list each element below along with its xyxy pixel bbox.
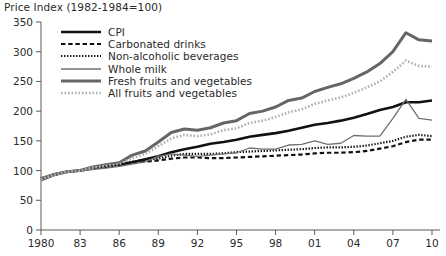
x-tick-label: 1980 bbox=[28, 237, 55, 249]
legend-line-swatch bbox=[61, 75, 101, 87]
legend-label: CPI bbox=[108, 26, 125, 38]
chart-legend: CPICarbonated drinksNon-alcoholic bevera… bbox=[61, 26, 252, 99]
y-tick-label: 50 bbox=[20, 194, 33, 206]
legend-line-swatch bbox=[61, 63, 101, 75]
x-tick-label: 01 bbox=[308, 237, 321, 249]
x-tick-label: 10 bbox=[425, 237, 438, 249]
series-line bbox=[41, 140, 432, 179]
x-tick-label: 83 bbox=[73, 237, 86, 249]
x-axis: 198083868992959801040710 bbox=[28, 230, 440, 249]
legend-line-swatch bbox=[61, 38, 101, 50]
legend-label: All fruits and vegetables bbox=[108, 87, 237, 99]
y-axis: 050100150200250300350 bbox=[13, 16, 41, 236]
y-tick-label: 150 bbox=[13, 135, 33, 147]
x-tick-label: 95 bbox=[230, 237, 243, 249]
y-tick-label: 200 bbox=[13, 105, 33, 117]
legend-label: Non-alcoholic beverages bbox=[108, 50, 239, 62]
x-tick-label: 04 bbox=[347, 237, 361, 249]
legend-item[interactable]: All fruits and vegetables bbox=[61, 87, 252, 99]
legend-line-swatch bbox=[61, 87, 101, 99]
x-tick-label: 89 bbox=[152, 237, 165, 249]
legend-label: Whole milk bbox=[108, 63, 167, 75]
y-tick-label: 300 bbox=[13, 46, 33, 58]
legend-line-swatch bbox=[61, 50, 101, 62]
y-tick-label: 100 bbox=[13, 165, 33, 177]
x-tick-label: 98 bbox=[269, 237, 282, 249]
y-tick-label: 250 bbox=[13, 75, 33, 87]
legend-label: Carbonated drinks bbox=[108, 38, 206, 50]
y-tick-label: 0 bbox=[26, 224, 33, 236]
legend-item[interactable]: Non-alcoholic beverages bbox=[61, 50, 252, 62]
x-tick-label: 92 bbox=[191, 237, 204, 249]
legend-item[interactable]: Carbonated drinks bbox=[61, 38, 252, 50]
y-tick-label: 350 bbox=[13, 16, 33, 28]
legend-item[interactable]: Whole milk bbox=[61, 63, 252, 75]
legend-label: Fresh fruits and vegetables bbox=[108, 75, 252, 87]
x-tick-label: 07 bbox=[386, 237, 399, 249]
price-index-line-chart: Price Index (1982-1984=100) 050100150200… bbox=[0, 0, 446, 256]
legend-line-swatch bbox=[61, 26, 101, 38]
legend-item[interactable]: Fresh fruits and vegetables bbox=[61, 75, 252, 87]
legend-item[interactable]: CPI bbox=[61, 26, 252, 38]
x-tick-label: 86 bbox=[113, 237, 127, 249]
